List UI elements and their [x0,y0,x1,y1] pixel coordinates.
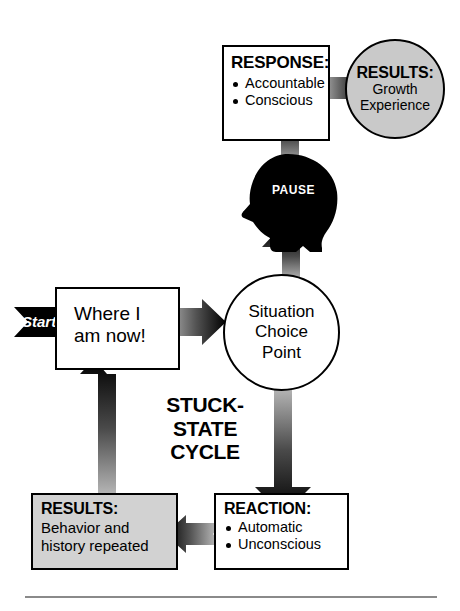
response-bullet-item: Accountable [232,75,328,92]
node-response-box[interactable]: RESPONSE: Accountable Conscious [222,45,330,141]
response-bullet-item: Conscious [232,92,328,109]
where-i-am-now-line: Where I [74,303,178,325]
results-growth-line: Experience [356,98,433,114]
results-repeated-line: history repeated [41,537,176,555]
results-growth-line: Growth [356,82,433,98]
cycle-label-line: STATE [150,417,260,441]
situation-line: Situation [248,302,314,322]
cycle-label-line: CYCLE [150,440,260,464]
stuck-state-cycle-label: STUCK- STATE CYCLE [150,393,260,464]
pause-head-silhouette [242,154,338,252]
reaction-bullet-list: Automatic Unconscious [225,519,347,553]
diagram-canvas: RESPONSE: Accountable Conscious RESULTS:… [0,0,460,611]
where-i-am-now-text: Where I am now! [74,303,178,348]
cycle-label-line: STUCK- [150,393,260,417]
reaction-bullet-item: Automatic [225,519,347,536]
situation-line: Point [248,343,314,363]
reaction-bullet-item: Unconscious [225,536,347,553]
node-situation-choice-point-circle[interactable]: Situation Choice Point [223,274,340,391]
results-repeated-line: Behavior and [41,519,176,537]
results-repeated-text: Behavior and history repeated [41,519,176,555]
node-results-growth-circle[interactable]: RESULTS: Growth Experience [345,39,445,139]
results-repeated-heading: RESULTS: [41,500,176,518]
response-heading: RESPONSE: [231,53,328,73]
node-reaction-box[interactable]: REACTION: Automatic Unconscious [214,493,349,570]
bottom-divider [25,596,437,598]
response-bullet-list: Accountable Conscious [232,75,328,109]
node-results-repeated-box[interactable]: RESULTS: Behavior and history repeated [31,493,178,570]
pause-label: PAUSE [272,183,315,197]
situation-line: Choice [248,322,314,342]
where-i-am-now-line: am now! [74,325,178,347]
start-arrow-label: Start [22,313,56,330]
connector-results-to-where [80,359,116,513]
results-growth-text-block: RESULTS: Growth Experience [356,64,433,113]
node-where-i-am-now-box[interactable]: Where I am now! [55,287,180,370]
results-growth-heading: RESULTS: [356,64,433,82]
situation-text-block: Situation Choice Point [248,302,314,363]
reaction-heading: REACTION: [224,500,347,518]
